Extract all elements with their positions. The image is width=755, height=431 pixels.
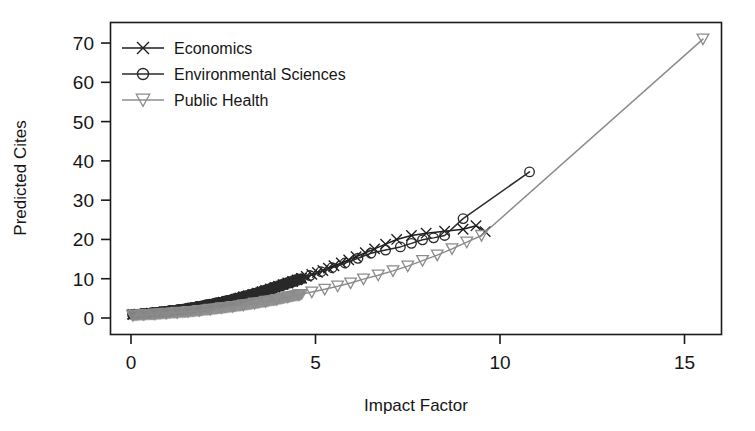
x-axis-title: Impact Factor: [364, 396, 468, 415]
y-tick-label: 40: [73, 151, 94, 172]
y-tick-label: 70: [73, 33, 94, 54]
y-tick-label: 50: [73, 112, 94, 133]
legend-item-public-health[interactable]: Public Health: [122, 92, 268, 109]
y-tick-label: 30: [73, 190, 94, 211]
x-axis-ticks: 051015: [126, 335, 695, 373]
series-markers: [128, 167, 534, 319]
legend-label: Economics: [174, 40, 252, 57]
legend-item-economics[interactable]: Economics: [122, 40, 252, 57]
legend-label: Public Health: [174, 92, 268, 109]
series-environmental-sciences: [128, 167, 534, 319]
marker-x: [471, 220, 481, 230]
x-tick-label: 0: [126, 352, 137, 373]
y-tick-label: 10: [73, 269, 94, 290]
x-tick-label: 10: [489, 352, 510, 373]
x-tick-label: 15: [674, 352, 695, 373]
chart-figure: 051015 010203040506070 Impact Factor Pre…: [0, 0, 755, 431]
y-tick-label: 0: [83, 308, 94, 329]
legend-label: Environmental Sciences: [174, 66, 346, 83]
series-line: [133, 226, 485, 315]
x-tick-label: 5: [310, 352, 321, 373]
predicted-cites-vs-impact-factor-chart: 051015 010203040506070 Impact Factor Pre…: [0, 0, 755, 431]
legend-item-environmental-sciences[interactable]: Environmental Sciences: [122, 66, 346, 83]
y-axis-ticks: 010203040506070: [73, 33, 110, 329]
y-axis-title: Predicted Cites: [11, 120, 30, 235]
y-tick-label: 60: [73, 72, 94, 93]
series-dense-cluster: [127, 290, 307, 320]
chart-legend: EconomicsEnvironmental SciencesPublic He…: [122, 40, 346, 109]
y-tick-label: 20: [73, 229, 94, 250]
